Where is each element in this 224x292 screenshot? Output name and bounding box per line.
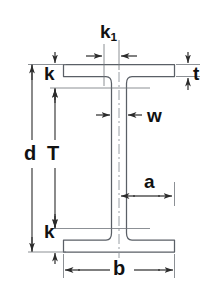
label-k1: k1 (100, 22, 117, 41)
label-b: b (113, 258, 125, 278)
i-beam-dimension-diagram: k1 t k w d T a k b (0, 0, 224, 292)
label-a: a (144, 172, 155, 191)
label-k1-text: k (100, 21, 111, 42)
label-k-top: k (44, 64, 55, 83)
label-t: t (193, 64, 199, 83)
label-T: T (47, 143, 59, 163)
label-k-bottom: k (44, 222, 55, 241)
label-w: w (147, 106, 162, 125)
label-k1-subscript: 1 (111, 30, 118, 43)
label-d: d (24, 143, 36, 163)
